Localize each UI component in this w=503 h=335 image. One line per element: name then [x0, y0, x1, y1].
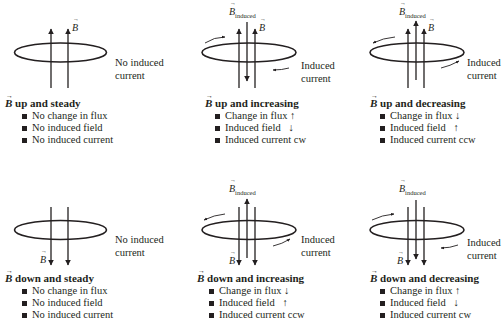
current-arrow-cw-icon	[273, 68, 289, 70]
current-label: Induced current	[467, 56, 501, 82]
induced-field-label: Binduced	[229, 183, 256, 196]
caption-down-steady: B down and steady No change in flux No i…	[5, 272, 113, 321]
caption-down-decreasing: B down and decreasing Change in flux ↑ I…	[370, 272, 479, 321]
current-label: Induced current	[301, 59, 335, 85]
induced-field-label: Binduced	[399, 6, 426, 19]
bullet-list: No change in flux No induced field No in…	[5, 110, 113, 146]
bullet-item: Induced current ccw	[380, 134, 476, 146]
field-label-b: B	[397, 255, 403, 266]
caption-up-decreasing: B up and decreasing Change in flux ↓ Ind…	[370, 97, 476, 146]
panel-up-increasing: Binduced B Induced current B up and incr…	[167, 0, 335, 165]
bullet-list: Change in flux ↑ Induced field ↓ Induced…	[205, 110, 306, 146]
bullet-item: Induced current cw	[215, 134, 306, 146]
caption-down-increasing: B down and increasing Change in flux ↓ I…	[197, 272, 305, 321]
bullet-list: Change in flux ↑ Induced field ↓ Induced…	[370, 285, 479, 321]
current-label: No induced current	[115, 56, 164, 82]
panel-down-steady: B No induced current B down and steady N…	[0, 178, 168, 335]
panel-title: B up and decreasing	[370, 97, 476, 109]
panel-up-steady: B No induced current B up and steady No …	[0, 0, 168, 165]
bullet-list: No change in flux No induced field No in…	[5, 285, 113, 321]
bullet-item: Induced field ↓	[380, 297, 479, 309]
panel-title: B up and steady	[5, 97, 113, 109]
bullet-item: Induced field ↑	[209, 297, 305, 309]
bullet-item: Change in flux ↑	[215, 110, 306, 122]
field-label-b: B	[229, 255, 235, 266]
induced-field-label: Binduced	[399, 183, 426, 196]
field-label-b: B	[40, 254, 46, 265]
field-label-b: B	[72, 22, 78, 33]
panel-title: B down and steady	[5, 272, 113, 284]
induced-field-label: Binduced	[229, 6, 256, 19]
current-arrow-cw-icon	[441, 245, 458, 248]
current-arrow-ccw-icon	[204, 214, 225, 220]
current-arrow-cw-icon	[205, 37, 225, 43]
caption-up-steady: B up and steady No change in flux No ind…	[5, 97, 113, 146]
panel-down-increasing: Binduced B Induced current B down and in…	[167, 178, 335, 335]
bullet-item: Change in flux ↓	[380, 110, 476, 122]
current-arrow-cw-icon	[372, 214, 394, 220]
panel-down-decreasing: Binduced B Induced current B down and de…	[335, 178, 503, 335]
bullet-item: Induced current cw	[380, 309, 479, 321]
wire-loop-icon	[202, 221, 296, 240]
bullet-item: No change in flux	[22, 285, 113, 297]
field-label-b: B	[259, 22, 265, 33]
bullet-list: Change in flux ↓ Induced field ↑ Induced…	[197, 285, 305, 321]
panel-title: B up and increasing	[205, 97, 306, 109]
bullet-item: No induced field	[22, 122, 113, 134]
current-label: Induced current	[301, 233, 335, 259]
wire-loop-icon	[370, 221, 464, 240]
bullet-item: Change in flux ↑	[380, 285, 479, 297]
bullet-item: Induced current ccw	[209, 309, 305, 321]
wire-loop-icon	[370, 43, 464, 62]
bullet-item: Change in flux ↓	[209, 285, 305, 297]
field-label-b: B	[428, 22, 434, 33]
panel-title: B down and decreasing	[370, 272, 479, 284]
bullet-list: Change in flux ↓ Induced field ↑ Induced…	[370, 110, 476, 146]
panel-up-decreasing: Binduced B Induced current B up and decr…	[335, 0, 503, 165]
bullet-item: Induced field ↓	[215, 122, 306, 134]
bullet-item: No change in flux	[22, 110, 113, 122]
wire-loop-icon	[202, 43, 296, 62]
current-label: No induced current	[115, 233, 164, 259]
current-arrow-ccw-icon	[273, 239, 290, 246]
wire-loop-icon	[15, 43, 107, 62]
current-arrow-ccw-icon	[441, 61, 459, 68]
current-arrow-ccw-icon	[373, 37, 395, 43]
panel-title: B down and increasing	[197, 272, 305, 284]
current-label: Induced current	[467, 236, 501, 262]
caption-up-increasing: B up and increasing Change in flux ↑ Ind…	[205, 97, 306, 146]
bullet-item: No induced field	[22, 297, 113, 309]
bullet-item: No induced current	[22, 309, 113, 321]
wire-loop-icon	[15, 221, 107, 240]
bullet-item: Induced field ↑	[380, 122, 476, 134]
bullet-item: No induced current	[22, 134, 113, 146]
